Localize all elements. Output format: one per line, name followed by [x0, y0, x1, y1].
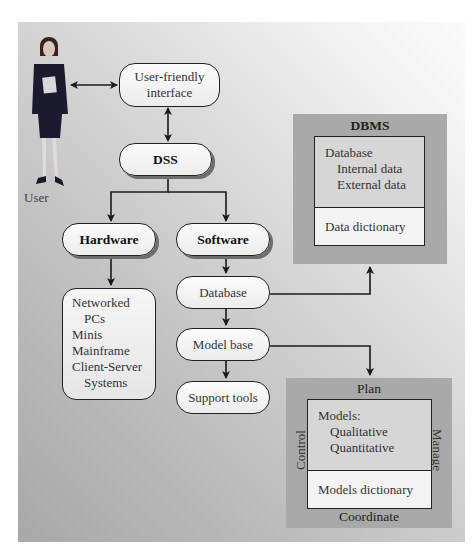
models-section: Models: Qualitative Quantitative: [308, 400, 431, 464]
hardware-item: Client-Server: [72, 359, 155, 375]
hardware-list: Networked PCs Minis Mainframe Client-Ser…: [62, 288, 156, 400]
user-friendly-interface-node: User-friendly interface: [119, 63, 220, 107]
hardware-item: Minis: [72, 327, 155, 343]
models-dictionary-section: Models dictionary: [308, 470, 431, 508]
software-node: Software: [176, 223, 270, 256]
hardware-node: Hardware: [62, 223, 156, 256]
hardware-item: Systems: [72, 375, 155, 391]
model-base-label: Model base: [193, 337, 253, 353]
user-figure-icon: [28, 30, 76, 190]
coordinate-label: Coordinate: [286, 509, 452, 525]
models-item: Qualitative: [318, 424, 421, 440]
models-inner-box: Models: Qualitative Quantitative Models …: [307, 399, 432, 509]
interface-line2: interface: [147, 85, 192, 101]
support-tools-label: Support tools: [188, 390, 258, 406]
dbms-inner-box: Database Internal data External data Dat…: [314, 136, 425, 246]
model-management-frame: Plan Coordinate Control Manage Models: Q…: [286, 378, 452, 528]
hardware-item: PCs: [72, 311, 155, 327]
database-label: Database: [199, 285, 247, 301]
dbms-title: DBMS: [293, 118, 447, 134]
user-label: User: [24, 190, 49, 206]
plan-label: Plan: [286, 381, 452, 397]
dbms-database-item: Internal data: [325, 161, 414, 177]
database-node: Database: [176, 276, 270, 309]
data-dictionary-section: Data dictionary: [315, 207, 424, 245]
hardware-item: Networked: [72, 295, 155, 311]
models-heading: Models:: [318, 408, 421, 424]
dbms-database-section: Database Internal data External data: [315, 137, 424, 201]
model-base-node: Model base: [176, 328, 270, 361]
software-label: Software: [197, 232, 249, 248]
interface-line1: User-friendly: [135, 69, 205, 85]
models-item: Quantitative: [318, 440, 421, 456]
dbms-frame: DBMS Database Internal data External dat…: [293, 114, 447, 264]
dss-node: DSS: [119, 143, 212, 176]
hardware-item: Mainframe: [72, 343, 155, 359]
data-dictionary-label: Data dictionary: [325, 219, 406, 235]
dbms-database-heading: Database: [325, 145, 414, 161]
support-tools-node: Support tools: [176, 381, 270, 414]
hardware-label: Hardware: [80, 232, 139, 248]
dss-label: DSS: [153, 152, 178, 168]
dbms-database-item: External data: [325, 177, 414, 193]
models-dictionary-label: Models dictionary: [318, 482, 413, 498]
